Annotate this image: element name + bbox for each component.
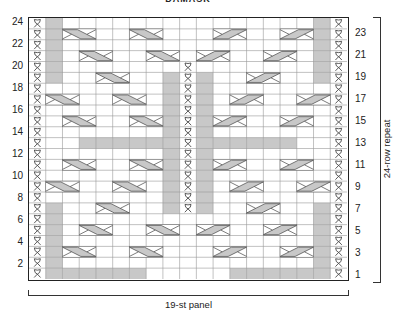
chart-title: DAMASK xyxy=(0,0,376,4)
purl-cell xyxy=(314,40,331,51)
twisted-stitch-icon xyxy=(34,259,40,267)
row-label: 2 xyxy=(3,258,23,269)
twisted-stitch-icon xyxy=(335,128,341,136)
twisted-stitch-icon xyxy=(34,20,40,28)
twisted-stitch-icon xyxy=(335,226,341,234)
purl-cell xyxy=(230,268,247,279)
purl-cell xyxy=(314,236,331,247)
twisted-stitch-icon xyxy=(34,161,40,169)
twisted-stitch-icon xyxy=(34,270,40,278)
twisted-stitch-icon xyxy=(34,183,40,191)
purl-cell xyxy=(314,29,331,40)
purl-cell xyxy=(196,181,213,192)
row-label: 23 xyxy=(355,27,375,38)
purl-cell xyxy=(163,149,180,160)
purl-cell xyxy=(196,203,213,214)
purl-cell xyxy=(196,105,213,116)
purl-cell xyxy=(163,94,180,105)
purl-cell xyxy=(46,268,63,279)
twisted-stitch-icon xyxy=(335,270,341,278)
purl-cell xyxy=(196,192,213,203)
twisted-stitch-icon xyxy=(34,226,40,234)
purl-cell xyxy=(129,138,146,149)
purl-cell xyxy=(314,62,331,73)
row-label: 21 xyxy=(355,49,375,60)
purl-cell xyxy=(79,138,96,149)
row-label: 5 xyxy=(355,225,375,236)
row-label: 13 xyxy=(355,137,375,148)
twisted-stitch-icon xyxy=(185,74,191,82)
twisted-stitch-icon xyxy=(185,204,191,212)
purl-cell xyxy=(96,268,113,279)
purl-cell xyxy=(314,51,331,62)
purl-cell xyxy=(314,246,331,257)
twisted-stitch-icon xyxy=(34,63,40,71)
purl-cell xyxy=(297,268,314,279)
purl-cell xyxy=(314,72,331,83)
purl-cell xyxy=(163,105,180,116)
purl-cell xyxy=(46,246,63,257)
twisted-stitch-icon xyxy=(185,107,191,115)
twisted-stitch-icon xyxy=(335,204,341,212)
purl-cell xyxy=(46,40,63,51)
row-label: 9 xyxy=(355,181,375,192)
twisted-stitch-icon xyxy=(34,194,40,202)
purl-cell xyxy=(163,203,180,214)
twisted-stitch-icon xyxy=(185,117,191,125)
row-label: 4 xyxy=(3,236,23,247)
purl-cell xyxy=(146,138,163,149)
twisted-stitch-icon xyxy=(34,52,40,60)
chart-cells xyxy=(29,18,347,279)
purl-cell xyxy=(196,159,213,170)
twisted-stitch-icon xyxy=(335,74,341,82)
row-label: 1 xyxy=(355,269,375,280)
twisted-stitch-icon xyxy=(335,248,341,256)
twisted-stitch-icon xyxy=(335,117,341,125)
row-label: 20 xyxy=(3,60,23,71)
purl-cell xyxy=(230,138,247,149)
row-label: 6 xyxy=(3,214,23,225)
repeat-label: 24-row repeat xyxy=(381,120,392,179)
purl-cell xyxy=(247,138,264,149)
purl-cell xyxy=(196,116,213,127)
row-label: 22 xyxy=(3,38,23,49)
twisted-stitch-icon xyxy=(34,215,40,223)
purl-cell xyxy=(113,268,130,279)
purl-cell xyxy=(163,72,180,83)
purl-cell xyxy=(62,268,79,279)
row-label: 18 xyxy=(3,82,23,93)
twisted-stitch-icon xyxy=(335,96,341,104)
twisted-stitch-icon xyxy=(185,85,191,93)
twisted-stitch-icon xyxy=(185,183,191,191)
twisted-stitch-icon xyxy=(34,237,40,245)
twisted-stitch-icon xyxy=(335,30,341,38)
twisted-stitch-icon xyxy=(335,183,341,191)
twisted-stitch-icon xyxy=(34,150,40,158)
row-label: 12 xyxy=(3,148,23,159)
purl-cell xyxy=(314,18,331,29)
knitting-chart-grid xyxy=(28,17,349,281)
purl-cell xyxy=(314,257,331,268)
purl-cell xyxy=(113,138,130,149)
purl-cell xyxy=(46,225,63,236)
twisted-stitch-icon xyxy=(34,107,40,115)
purl-cell xyxy=(46,72,63,83)
twisted-stitch-icon xyxy=(335,63,341,71)
purl-cell xyxy=(196,83,213,94)
twisted-stitch-icon xyxy=(185,172,191,180)
twisted-stitch-icon xyxy=(335,41,341,49)
purl-cell xyxy=(163,192,180,203)
row-label: 8 xyxy=(3,192,23,203)
twisted-stitch-icon xyxy=(34,96,40,104)
purl-cell xyxy=(213,138,230,149)
row-label: 17 xyxy=(355,93,375,104)
twisted-stitch-icon xyxy=(335,194,341,202)
twisted-stitch-icon xyxy=(335,52,341,60)
purl-cell xyxy=(46,51,63,62)
purl-cell xyxy=(314,225,331,236)
twisted-stitch-icon xyxy=(185,150,191,158)
twisted-stitch-icon xyxy=(335,215,341,223)
panel-label: 19-st panel xyxy=(28,299,349,310)
purl-cell xyxy=(96,138,113,149)
purl-cell xyxy=(79,268,96,279)
